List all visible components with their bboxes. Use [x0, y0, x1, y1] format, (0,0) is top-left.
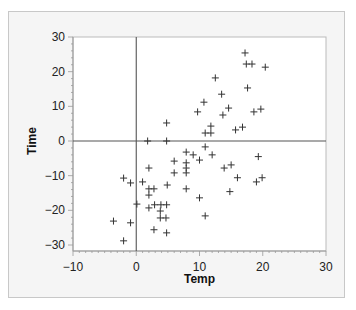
x-tick-label: 20: [256, 260, 270, 274]
x-tick-label: −10: [63, 260, 84, 274]
y-tick-label: −10: [45, 169, 66, 183]
plot-area: [73, 37, 326, 251]
x-tick-label: 0: [133, 260, 140, 274]
y-tick-label: −20: [45, 203, 66, 217]
y-tick-label: 20: [52, 65, 66, 79]
x-tick-label: 30: [319, 260, 333, 274]
y-tick-label: 30: [52, 30, 66, 44]
y-axis-title: Time: [25, 127, 39, 155]
x-axis: −100102030: [63, 251, 333, 274]
x-axis-title: Temp: [184, 272, 215, 286]
y-tick-label: 10: [52, 99, 66, 113]
y-axis: −30−20−100102030: [45, 30, 73, 252]
scatter-chart: −30−20−100102030 −100102030 Temp Time: [0, 0, 356, 310]
y-tick-label: 0: [58, 134, 65, 148]
y-tick-label: −30: [45, 238, 66, 252]
